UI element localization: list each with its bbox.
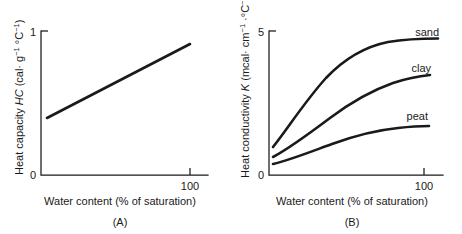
panel-a-y-title-unit-mid: °C xyxy=(13,32,25,47)
panel-b-y-title-prefix: Heat conductivity xyxy=(239,91,251,178)
panel-b-ytick-label-0: 0 xyxy=(258,169,264,181)
panel-a-caption: (A) xyxy=(113,216,128,228)
panel-b-xtick-label-100: 100 xyxy=(415,180,433,192)
panel-a-y-axis-title: Heat capacity HC (cal· g−1 °C−1) xyxy=(12,20,25,175)
panel-b-label-sand: sand xyxy=(415,26,439,38)
panel-b: Heat conductivity K (mcal· cm−1 ·°C−1) 5… xyxy=(228,0,462,234)
panel-b-y-title-sup2: −1 xyxy=(238,0,247,5)
panel-b-y-title-sup1: −1 xyxy=(238,24,247,33)
panel-a-x-axis-title: Water content (% of saturation) xyxy=(44,195,196,207)
panel-a-y-title-sup1: −1 xyxy=(12,47,21,56)
panel-b-caption: (B) xyxy=(345,216,360,228)
panel-b-curve-sand xyxy=(273,39,438,148)
panel-a: Heat capacity HC (cal· g−1 °C−1) 1 0 100… xyxy=(0,0,231,234)
panel-b-ytick-label-5: 5 xyxy=(258,26,264,38)
panel-a-y-title-prefix: Heat capacity xyxy=(13,105,25,175)
panel-a-y-title-symbol: HC xyxy=(13,89,25,105)
panel-b-y-title-unit-mid: ·°C xyxy=(239,5,251,24)
panel-a-y-title-unit-close: ) xyxy=(13,20,25,24)
figure-soil-thermal-properties: Heat capacity HC (cal· g−1 °C−1) 1 0 100… xyxy=(0,0,462,234)
panel-a-y-title-unit-open: (cal· g xyxy=(13,56,25,90)
panel-a-data-line-heat-capacity xyxy=(47,44,190,118)
panel-b-curve-peat xyxy=(273,126,429,164)
panel-a-y-title-sup2: −1 xyxy=(12,23,21,32)
panel-b-y-axis-title: Heat conductivity K (mcal· cm−1 ·°C−1) xyxy=(238,0,251,178)
panel-b-y-title-unit-open: (mcal· cm xyxy=(239,33,251,84)
panel-a-ytick-label-1: 1 xyxy=(30,26,36,38)
panel-b-label-peat: peat xyxy=(407,110,428,122)
panel-a-ytick-label-0: 0 xyxy=(30,169,36,181)
panel-a-xtick-label-100: 100 xyxy=(181,180,199,192)
panel-b-label-clay: clay xyxy=(411,62,431,74)
panel-a-axes xyxy=(41,31,208,175)
panel-b-x-axis-title: Water content (% of saturation) xyxy=(276,195,428,207)
